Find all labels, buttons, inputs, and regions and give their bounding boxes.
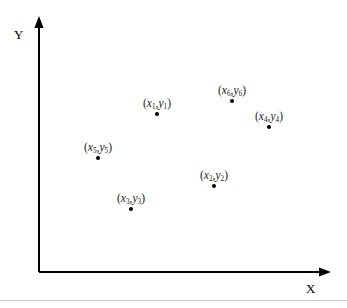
axes-drawing (0, 0, 347, 308)
point-label-2: (x2,y2) (200, 170, 228, 182)
point-label-3: (x3,y3) (117, 193, 145, 205)
page-divider-rule (0, 300, 347, 301)
figure-canvas: Y X (x1,y1) (x2,y2) (x3,y3) (x4,y4) (x5,… (0, 0, 347, 308)
y-axis-arrowhead (34, 16, 43, 28)
point-label-4: (x4,y4) (255, 111, 283, 123)
point-label-6: (x6,y6) (218, 85, 246, 97)
x-axis-arrowhead (319, 267, 331, 276)
x-axis-label: X (306, 282, 315, 295)
point-label-5: (x5,y5) (84, 142, 112, 154)
y-axis-label: Y (14, 28, 23, 41)
point-label-1: (x1,y1) (143, 98, 171, 110)
